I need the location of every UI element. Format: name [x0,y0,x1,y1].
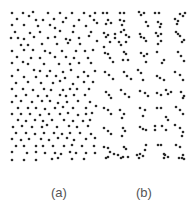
dot [28,138,31,141]
dot [127,59,130,62]
dot [53,132,56,135]
dot [87,75,90,78]
dot [163,153,166,156]
dot [110,113,113,116]
dot [167,156,170,159]
dot [102,12,105,15]
dot [160,94,163,97]
dot [144,149,147,152]
dot [16,18,19,21]
dot [30,57,33,60]
dot [31,101,34,104]
dot [159,26,162,29]
dot [179,109,182,112]
dot [83,71,86,74]
dot [52,145,55,148]
dot [64,77,67,80]
dot [23,24,26,27]
dot [34,133,37,136]
dot [182,79,185,82]
dot [41,126,44,129]
dot [143,12,146,15]
dot [62,89,65,92]
dot [174,124,177,127]
dot [77,100,80,103]
dot [17,37,20,40]
dot [11,88,14,91]
dot [53,18,56,21]
dot [35,76,38,79]
dot [90,31,93,34]
dot [145,21,148,24]
dot [179,13,182,16]
dot [88,88,91,91]
dot [40,138,43,141]
dot [61,50,64,53]
dot [87,125,90,128]
dot [160,107,163,110]
dot [109,41,112,44]
dot [29,113,32,116]
dot [39,114,42,117]
dot [77,76,80,79]
dot [41,100,44,103]
dot [22,12,25,15]
dot [58,63,61,66]
dot [124,130,127,133]
dot [114,33,117,36]
dot [46,124,49,127]
dot [125,53,128,56]
dot [145,144,148,147]
dot [65,38,68,41]
dot [46,75,49,78]
dot [158,12,161,15]
dot [125,34,128,37]
dot [182,113,185,116]
dot [20,139,23,142]
dot [65,56,68,59]
dot [61,133,64,136]
dot [89,15,92,18]
dot [44,108,47,111]
dot [174,18,177,21]
dot [39,31,42,34]
dot [157,144,160,147]
dot [105,23,108,26]
dot [165,129,168,132]
dot [126,75,129,78]
dot [71,158,74,161]
dot [143,37,146,40]
dot [69,39,72,42]
dot [160,144,163,147]
dot [23,76,26,79]
dot [120,31,123,34]
dot [107,34,110,37]
dot [138,11,141,14]
dot [182,15,185,18]
dot [17,107,20,110]
dot [40,82,43,85]
dot [154,125,157,128]
dot [35,145,38,148]
dot [54,56,57,59]
dot [183,158,186,161]
dot [167,119,170,122]
dot [10,37,13,40]
dot [66,137,69,140]
dot [49,100,52,103]
dot [127,156,130,159]
dot [123,12,126,15]
dot [142,79,145,82]
dot [89,101,92,104]
dot [14,31,17,34]
dot [62,106,65,109]
dot [105,36,108,39]
dot [122,59,125,62]
dot [15,145,18,148]
dot [145,40,148,43]
dot [22,61,25,64]
dot [27,81,30,84]
dot [181,135,184,138]
dot [90,133,93,136]
dot [26,152,29,155]
